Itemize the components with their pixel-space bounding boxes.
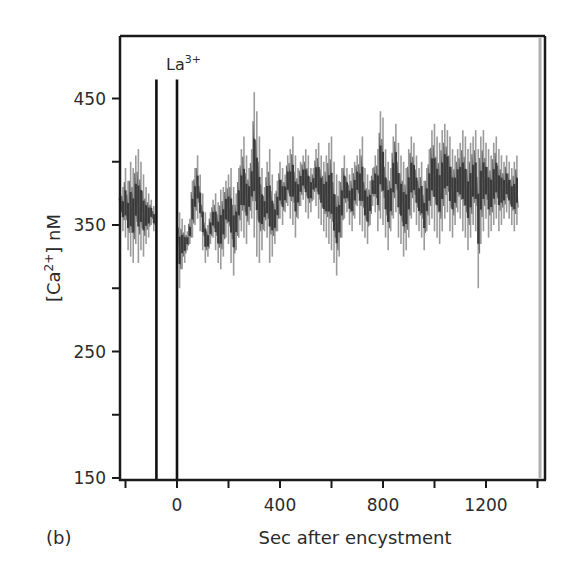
plot-frame [119,36,546,481]
calcium-chart: 150250350450 04008001200 La3+ [Ca2+] nM … [0,0,578,572]
y-axis-ticks: 150250350450 [74,89,120,489]
x-tick-label: 400 [264,495,296,515]
x-tick-label: 1200 [464,495,507,515]
x-axis-label: Sec after encystment [259,527,452,548]
y-tick-label: 150 [74,468,106,488]
x-axis-ticks: 04008001200 [126,480,538,515]
y-axis-label: [Ca2+] nM [42,214,64,302]
calcium-trace [119,92,518,288]
lanthanum-annotation: La3+ [166,53,201,74]
x-tick-label: 800 [367,495,399,515]
panel-label: (b) [46,527,71,548]
y-tick-label: 450 [74,89,106,109]
x-tick-label: 0 [172,495,183,515]
y-tick-label: 350 [74,215,106,235]
trace-line [119,172,155,239]
event-markers [156,80,177,480]
y-tick-label: 250 [74,342,106,362]
